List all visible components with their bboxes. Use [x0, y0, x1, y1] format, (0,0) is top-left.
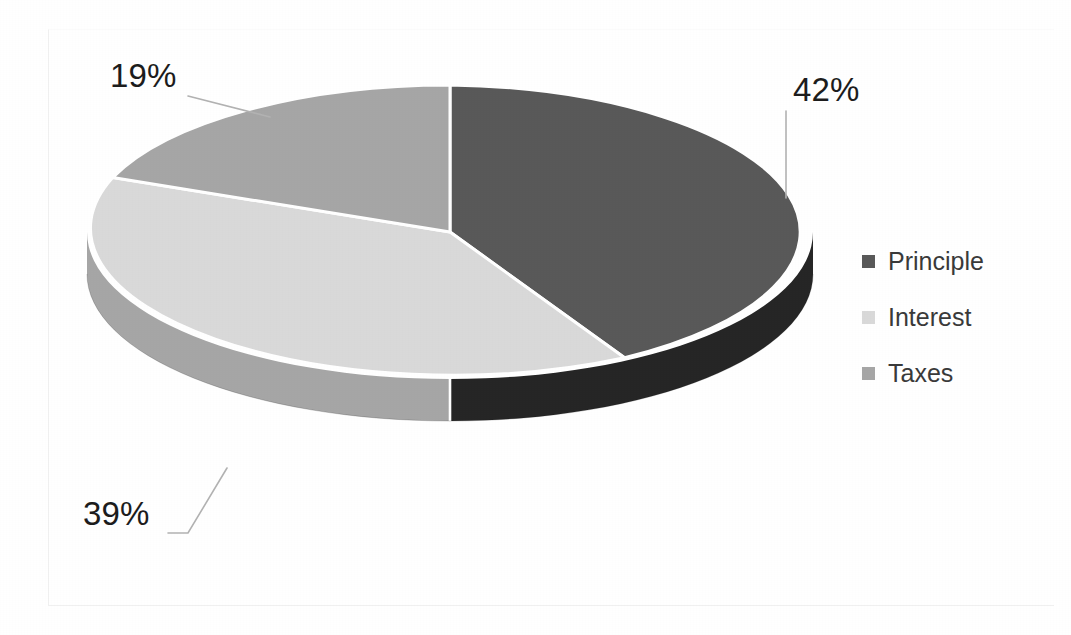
legend-label-principle: Principle [888, 248, 984, 274]
data-label-interest: 39% [83, 495, 150, 533]
legend-swatch-principle-icon [862, 255, 875, 268]
chart-legend: Principle Interest Taxes [862, 248, 984, 386]
legend-item-interest[interactable]: Interest [862, 304, 984, 330]
legend-swatch-taxes-icon [862, 367, 875, 380]
leader-line-interest [168, 468, 227, 533]
legend-label-taxes: Taxes [888, 360, 953, 386]
legend-item-principle[interactable]: Principle [862, 248, 984, 274]
pie-chart-figure: 42% 19% 39% Principle Interest Taxes [0, 0, 1071, 635]
data-label-taxes: 19% [110, 57, 177, 95]
legend-item-taxes[interactable]: Taxes [862, 360, 984, 386]
legend-swatch-interest-icon [862, 311, 875, 324]
pie-top-face [90, 85, 800, 375]
data-label-principle: 42% [793, 71, 860, 109]
legend-label-interest: Interest [888, 304, 971, 330]
